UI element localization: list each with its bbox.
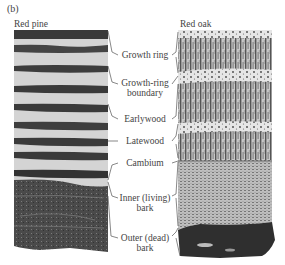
label-growth-ring-boundary: Growth-ring boundary (116, 78, 174, 98)
pine-latewood-band (14, 30, 108, 39)
label-inner-bark: Inner (living) bark (112, 193, 178, 213)
wood-cross-section-diagram (0, 0, 285, 265)
label-growth-ring: Growth ring (116, 50, 174, 60)
label-latewood: Latewood (116, 136, 174, 146)
label-outer-bark: Outer (dead) bark (112, 233, 178, 253)
pine-latewood-band (14, 85, 108, 93)
oak-outer-bark (178, 222, 275, 258)
pine-latewood-band (14, 65, 108, 73)
oak-inner-bark (178, 160, 272, 230)
label-cambium: Cambium (116, 158, 174, 168)
leader-growth-ring-right-bottom (176, 57, 178, 73)
oak-wood (178, 30, 272, 160)
leader-latewood-right-bottom (176, 144, 178, 158)
red-pine-panel (14, 30, 108, 252)
pine-bark (14, 179, 108, 252)
label-earlywood: Earlywood (116, 114, 174, 124)
red-oak-panel (178, 30, 275, 258)
oak-earlywood (178, 30, 272, 38)
